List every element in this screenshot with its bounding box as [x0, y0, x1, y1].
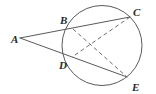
secant-line-ac [20, 17, 130, 38]
vertex-label-b: B [59, 14, 67, 26]
geometry-figure: A B C D E [0, 0, 156, 94]
chord-line-be [73, 29, 127, 77]
vertex-label-d: D [58, 59, 67, 71]
secant-line-ae [20, 38, 127, 77]
vertex-label-e: E [131, 81, 139, 93]
geometry-canvas: A B C D E [0, 0, 156, 94]
vertex-label-c: C [133, 6, 141, 18]
vertex-label-a: A [10, 33, 18, 45]
